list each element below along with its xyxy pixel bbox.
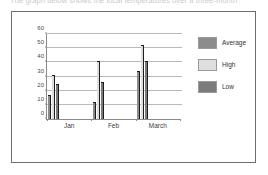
caption-text: The graph below shows the local temperat… <box>10 0 240 6</box>
y-tick-label-60: 60 <box>37 25 44 31</box>
legend-swatch-average <box>198 37 217 49</box>
plot-wrapper: 0102030405060 JanFebMarch <box>24 30 184 140</box>
x-tick-mark-march <box>136 119 137 121</box>
y-tick-label-0: 0 <box>41 110 44 116</box>
legend-label-high: High <box>222 62 235 69</box>
legend-item-high: High <box>198 56 254 74</box>
x-tick-label-feb: Feb <box>91 123 135 130</box>
chart-figure-inner: 0102030405060 JanFebMarch AverageHighLow <box>12 12 255 162</box>
bar-jan-average <box>48 95 51 119</box>
y-tick-label-50: 50 <box>37 39 44 45</box>
bars-layer: JanFebMarch <box>47 34 180 119</box>
legend-item-average: Average <box>198 34 254 52</box>
y-tick-label-40: 40 <box>37 53 44 59</box>
legend-label-average: Average <box>222 40 246 47</box>
y-tick-label-30: 30 <box>37 68 44 74</box>
bar-march-average <box>137 71 140 119</box>
bar-group-feb: Feb <box>91 34 135 119</box>
legend-item-low: Low <box>198 78 254 96</box>
chart-legend: AverageHighLow <box>198 34 254 100</box>
bar-feb-low <box>101 82 104 119</box>
y-tick-label-10: 10 <box>37 96 44 102</box>
legend-label-low: Low <box>222 84 234 91</box>
chart-figure-frame: 0102030405060 JanFebMarch AverageHighLow <box>11 11 256 163</box>
bar-jan-low <box>56 84 59 119</box>
y-tick-label-20: 20 <box>37 82 44 88</box>
x-tick-mark-feb <box>91 119 92 121</box>
bar-feb-high <box>97 61 100 119</box>
x-tick-mark-jan <box>47 119 48 121</box>
legend-swatch-low <box>198 81 217 93</box>
x-tick-label-march: March <box>136 123 180 130</box>
bar-feb-average <box>93 102 96 119</box>
bar-group-march: March <box>136 34 180 119</box>
bar-jan-high <box>52 75 55 119</box>
plot-area: 0102030405060 JanFebMarch <box>46 34 180 120</box>
bar-march-high <box>141 45 144 119</box>
legend-swatch-high <box>198 59 217 71</box>
bar-march-low <box>145 61 148 119</box>
x-tick-mark-end <box>180 119 181 121</box>
x-tick-label-jan: Jan <box>47 123 91 130</box>
bar-group-jan: Jan <box>47 34 91 119</box>
